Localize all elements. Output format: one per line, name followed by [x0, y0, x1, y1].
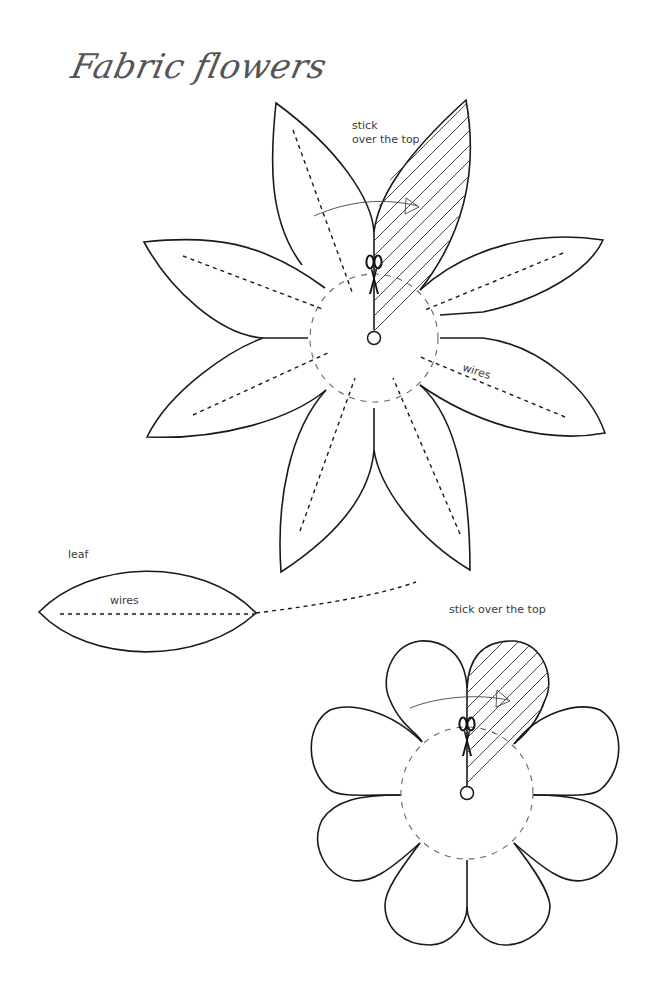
leaf-label: leaf [68, 548, 88, 562]
large-flower [144, 75, 605, 572]
stick-label-line1: stick [352, 119, 378, 133]
small-flower [311, 570, 619, 945]
template-page: Fabric flowers [0, 0, 649, 984]
leaf-template [39, 571, 416, 652]
stick-label-line2: over the top [352, 133, 420, 147]
stick-over-top-label: stick over the top [449, 603, 546, 617]
center-hole-small [461, 787, 474, 800]
wires-label-leaf: wires [110, 594, 139, 608]
fold-arrow-head [405, 198, 419, 214]
flower-templates-artwork [0, 0, 649, 984]
hatched-overlap-area [360, 75, 480, 360]
center-hole [368, 332, 381, 345]
